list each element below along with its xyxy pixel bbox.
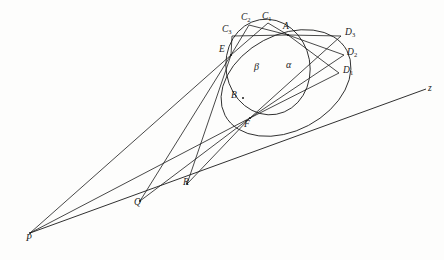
point-label-D3: D3: [345, 28, 355, 38]
conic-label-beta: β: [254, 62, 259, 72]
node-A: [287, 34, 289, 36]
point-label-A: A: [283, 22, 289, 32]
chord-A-D1: [288, 35, 339, 73]
point-label-F: F: [244, 120, 250, 130]
node-E: [230, 54, 232, 56]
chord-E-C1: [231, 23, 268, 55]
chord-F-D3: [250, 36, 341, 118]
geometry-figure: A B E F P Q R C1 C2 C3 D1 D2 D3 z α β: [0, 0, 444, 260]
conic-beta: [218, 12, 317, 121]
point-label-D1: D1: [343, 66, 353, 76]
point-label-P: P: [26, 234, 32, 244]
conic-label-alpha: α: [286, 60, 291, 70]
axis-label-z: z: [428, 84, 432, 94]
point-label-C3: C3: [222, 25, 232, 35]
node-B: [242, 97, 244, 99]
chord-E-C3: [231, 36, 232, 55]
point-label-D2: D2: [347, 48, 357, 58]
chord-A-C3: [232, 35, 288, 36]
chord-F-D1: [250, 73, 339, 118]
perspective-axis-z: [30, 89, 426, 233]
chord-A-D3: [288, 35, 341, 36]
figure-canvas: [0, 0, 444, 260]
point-label-E: E: [219, 45, 225, 55]
point-label-C2: C2: [241, 13, 251, 23]
ray-R-F: [187, 118, 250, 184]
point-label-C1: C1: [262, 12, 272, 22]
point-label-R: R: [183, 178, 189, 188]
point-label-B: B: [231, 91, 237, 101]
chord-F-D2: [250, 55, 344, 118]
point-label-Q: Q: [134, 198, 141, 208]
